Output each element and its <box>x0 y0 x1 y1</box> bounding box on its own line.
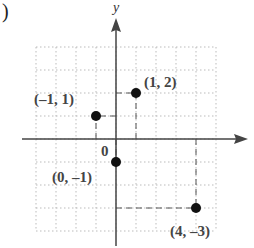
point-label: (–1, 1) <box>34 91 74 108</box>
data-point <box>191 203 201 213</box>
projection-guides <box>96 93 196 208</box>
x-axis-arrow-icon <box>234 134 248 144</box>
data-point <box>111 157 121 167</box>
y-axis-label: y <box>111 0 120 15</box>
coordinate-plane: y ) 0 (–1, 1)(1, 2)(0, –1)(4, –3) <box>0 0 254 248</box>
point-label: (1, 2) <box>144 74 177 91</box>
data-points: (–1, 1)(1, 2)(0, –1)(4, –3) <box>34 74 210 240</box>
data-point <box>91 111 101 121</box>
data-point <box>131 88 141 98</box>
origin-label: 0 <box>101 143 109 159</box>
point-label: (4, –3) <box>170 223 210 240</box>
y-axis-arrow-icon <box>111 18 121 32</box>
point-label: (0, –1) <box>52 169 92 186</box>
part-marker: ) <box>2 0 9 23</box>
